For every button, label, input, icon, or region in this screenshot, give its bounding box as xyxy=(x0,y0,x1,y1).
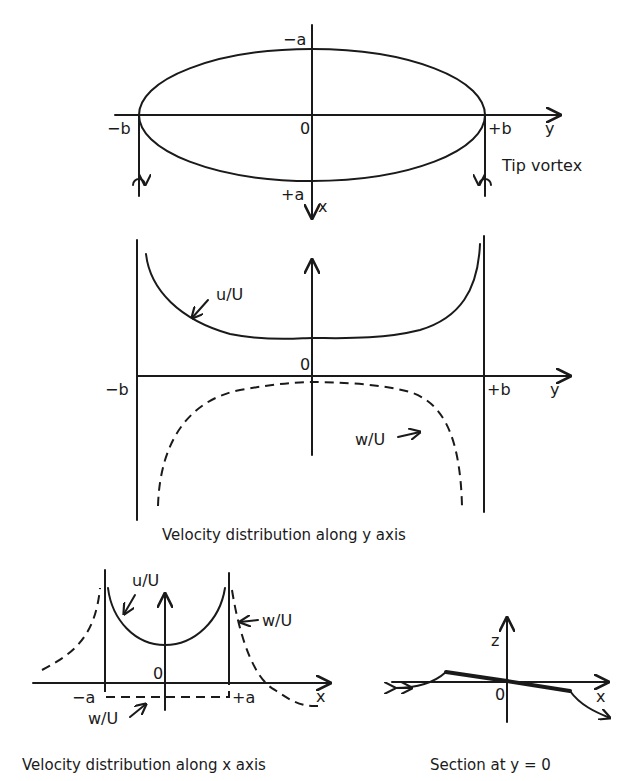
label-y-axis: y xyxy=(550,380,559,399)
caption-section: Section at y = 0 xyxy=(430,756,551,774)
label-w-curve: w/U xyxy=(355,430,385,449)
label-minus-a: −a xyxy=(72,688,95,707)
label-w-curve-right: w/U xyxy=(262,611,292,630)
label-plus-a: +a xyxy=(281,185,304,204)
u-curve xyxy=(108,588,225,645)
w-label-pointer-right xyxy=(240,620,258,622)
w-curve-wing xyxy=(105,683,229,697)
u-label-pointer xyxy=(124,595,135,614)
label-x-axis: x xyxy=(318,197,327,216)
planform-figure: −a +a −b +b 0 y x Tip vortex xyxy=(107,25,582,218)
w-curve xyxy=(158,382,462,506)
incoming-flow xyxy=(395,672,446,688)
label-y-axis: y xyxy=(545,119,554,138)
label-z-axis: z xyxy=(491,631,499,650)
caption-x-distribution: Velocity distribution along x axis xyxy=(22,756,266,774)
label-x-axis: x xyxy=(596,687,605,706)
w-label-pointer xyxy=(398,432,420,437)
y-distribution-figure: u/U w/U 0 −b +b y Velocity distribution … xyxy=(105,236,570,544)
label-x-axis: x xyxy=(316,687,325,706)
label-plus-a: +a xyxy=(232,688,255,707)
w-label-pointer-bottom xyxy=(130,704,146,717)
w-curve-upstream xyxy=(42,588,100,670)
label-w-curve-bottom: w/U xyxy=(88,709,118,728)
label-origin: 0 xyxy=(300,355,310,374)
label-origin: 0 xyxy=(153,664,163,683)
label-origin: 0 xyxy=(300,119,310,138)
label-u-curve: u/U xyxy=(216,285,243,304)
label-minus-b: −b xyxy=(105,380,129,399)
label-plus-b: +b xyxy=(487,380,511,399)
diagram-canvas: −a +a −b +b 0 y x Tip vortex u/U w/U 0 −… xyxy=(0,0,630,781)
label-tip-vortex: Tip vortex xyxy=(501,156,582,175)
label-plus-b: +b xyxy=(488,119,512,138)
label-origin: 0 xyxy=(495,685,505,704)
u-label-pointer xyxy=(192,300,208,318)
label-u-curve: u/U xyxy=(132,571,159,590)
label-minus-a: −a xyxy=(283,30,306,49)
section-figure: z x 0 Section at y = 0 xyxy=(392,618,610,774)
label-minus-b: −b xyxy=(107,119,131,138)
x-distribution-figure: u/U w/U w/U 0 −a +a x Velocity distribut… xyxy=(22,570,330,774)
caption-y-distribution: Velocity distribution along y axis xyxy=(162,526,406,544)
